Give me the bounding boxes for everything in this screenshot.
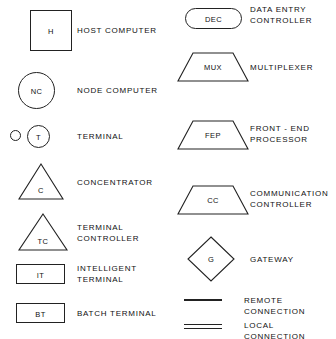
legend-entry-local-connection: LOCAL CONNECTION [184, 321, 336, 337]
terminal-dot-icon [10, 130, 21, 141]
triangle-symbol [18, 213, 68, 251]
symbol-text: IT [17, 271, 64, 280]
circle-symbol: NC [18, 72, 55, 109]
circle-symbol: T [27, 125, 50, 148]
symbol-text: BT [17, 310, 64, 319]
wide-rectangle-symbol: IT [16, 264, 65, 284]
entry-label: TERMINAL [77, 131, 123, 142]
legend-entry-gateway: G GATEWAY [187, 236, 336, 282]
entry-label: GATEWAY [250, 254, 294, 265]
stadium-symbol: DEC [185, 8, 242, 29]
entry-label: MULTIPLEXER [250, 62, 313, 73]
square-symbol: H [30, 10, 72, 51]
symbol-text: T [28, 133, 49, 142]
trapezoid-symbol [177, 52, 249, 82]
entry-label: BATCH TERMINAL [77, 308, 157, 319]
trapezoid-symbol [177, 120, 249, 150]
legend-entry-remote-connection: REMOTE CONNECTION [184, 295, 336, 311]
legend-entry-multiplexer: MUX MULTIPLEXER [177, 52, 336, 84]
entry-label: NODE COMPUTER [77, 85, 158, 96]
entry-label: DATA ENTRY CONTROLLER [250, 4, 312, 26]
entry-label: COMMUNICATION CONTROLLER [250, 188, 328, 210]
legend-entry-front-end-processor: FEP FRONT - END PROCESSOR [177, 120, 336, 152]
symbol-text: DEC [186, 15, 241, 24]
trapezoid-symbol [177, 185, 249, 215]
diamond-symbol [187, 236, 235, 282]
double-line-symbol-upper [184, 324, 222, 325]
entry-label: TERMINAL CONTROLLER [77, 222, 139, 244]
single-line-symbol [184, 299, 222, 301]
legend-entry-communication-controller: CC COMMUNICATION CONTROLLER [177, 185, 336, 217]
symbol-text: NC [19, 87, 54, 96]
entry-label: REMOTE CONNECTION [244, 295, 336, 317]
entry-label: FRONT - END PROCESSOR [250, 123, 310, 145]
symbol-text: H [31, 27, 71, 36]
wide-rectangle-symbol: BT [16, 303, 65, 323]
entry-label: LOCAL CONNECTION [244, 320, 336, 339]
entry-label: INTELLIGENT TERMINAL [77, 263, 137, 285]
double-line-symbol-lower [184, 328, 222, 329]
symbol-legend: H HOST COMPUTER NC NODE COMPUTER T TERMI… [0, 0, 336, 339]
entry-label: HOST COMPUTER [77, 25, 157, 36]
triangle-symbol [18, 163, 64, 200]
legend-entry-data-entry-controller: DEC DATA ENTRY CONTROLLER [185, 8, 336, 34]
entry-label: CONCENTRATOR [77, 177, 153, 188]
